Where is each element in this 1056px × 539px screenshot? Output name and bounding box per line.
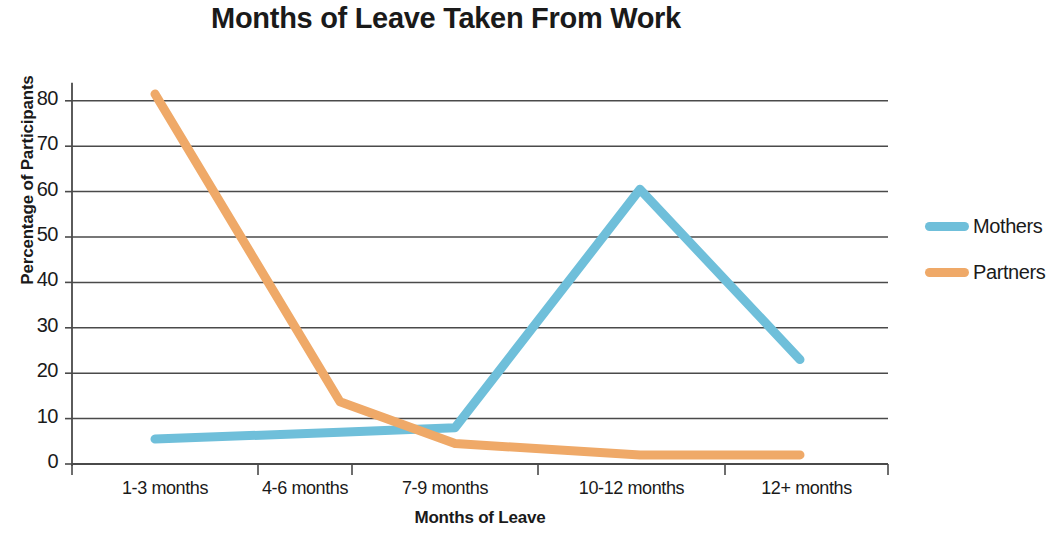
line-chart: Months of Leave Taken From Work 01020304… <box>0 0 1056 539</box>
series-line-mothers <box>155 189 800 439</box>
legend-item: Mothers <box>925 203 1045 249</box>
legend-swatch-icon <box>925 222 969 231</box>
legend-label: Partners <box>973 261 1045 284</box>
chart-legend: MothersPartners <box>925 203 1045 295</box>
x-tick-label: 4-6 months <box>262 478 348 499</box>
x-tick-label: 1-3 months <box>122 478 208 499</box>
y-tick-label: 0 <box>6 450 58 473</box>
plot-area <box>0 0 1056 539</box>
y-tick-label: 20 <box>6 359 58 382</box>
y-tick-label: 10 <box>6 405 58 428</box>
legend-swatch-icon <box>925 268 969 277</box>
y-axis-title: Percentage of Participants <box>18 70 38 290</box>
legend-label: Mothers <box>973 215 1042 238</box>
legend-item: Partners <box>925 249 1045 295</box>
y-tick-label: 30 <box>6 314 58 337</box>
axis-lines <box>72 83 888 475</box>
x-tick-label: 12+ months <box>761 478 852 499</box>
x-axis-title: Months of Leave <box>72 508 888 528</box>
x-tick-label: 10-12 months <box>579 478 684 499</box>
series-lines <box>155 94 800 455</box>
x-tick-label: 7-9 months <box>402 478 488 499</box>
